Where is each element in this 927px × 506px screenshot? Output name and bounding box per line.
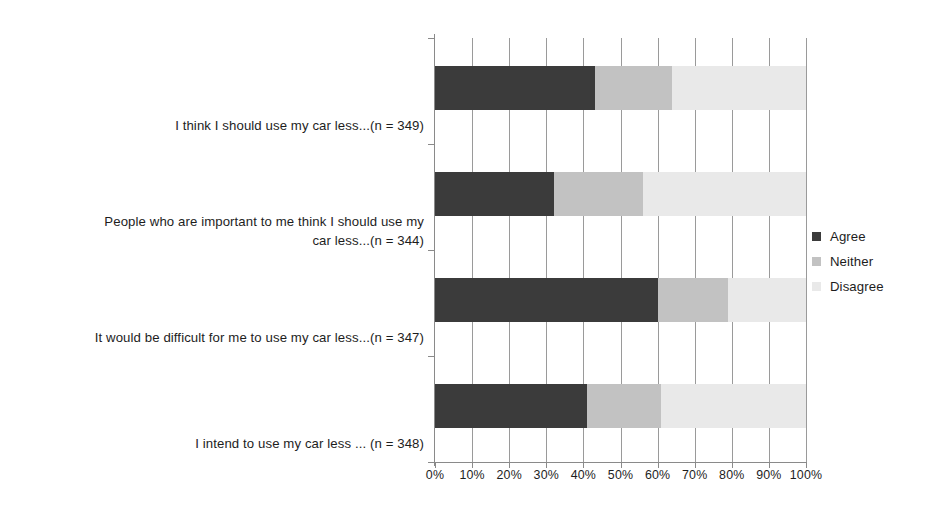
bar-segment-neither[interactable] [587,384,661,428]
x-axis-tick-label: 40% [571,468,596,482]
legend-swatch-icon [812,232,821,241]
bar-segment-agree[interactable] [435,172,554,216]
bar-segment-disagree[interactable] [661,384,806,428]
gridline [806,38,807,462]
category-label-1: People who are important to me think I s… [104,212,424,250]
category-label-0: I think I should use my car less...(n = … [175,116,424,135]
plot-area [435,38,806,462]
bar-segment-disagree[interactable] [728,278,806,322]
bar-row[interactable] [435,384,806,428]
legend-item-disagree[interactable]: Disagree [812,274,922,299]
x-axis-tick-label: 10% [459,468,484,482]
legend-swatch-icon [812,257,821,266]
bar-row[interactable] [435,278,806,322]
x-axis-tick-label: 90% [756,468,781,482]
bar-segment-agree[interactable] [435,278,658,322]
x-axis-tick-label: 60% [645,468,670,482]
x-axis-tick-label: 70% [682,468,707,482]
bar-segment-neither[interactable] [658,278,728,322]
category-label-3: I intend to use my car less ... (n = 348… [195,434,424,453]
bar-segment-disagree[interactable] [672,66,806,110]
y-axis-tick [428,356,435,357]
x-axis-tick-label: 50% [608,468,633,482]
y-axis-tick [428,462,435,463]
bar-row[interactable] [435,172,806,216]
x-axis-tick-label: 80% [719,468,744,482]
x-axis-tick-label: 30% [534,468,559,482]
y-axis-tick [428,144,435,145]
legend-label: Disagree [830,279,884,294]
stacked-bar-chart: I think I should use my car less...(n = … [0,0,927,506]
legend-label: Agree [830,229,866,244]
x-axis-tick-label: 0% [426,468,444,482]
bar-segment-neither[interactable] [554,172,643,216]
bar-row[interactable] [435,66,806,110]
category-label-2: It would be difficult for me to use my c… [95,328,424,347]
x-axis-tick-labels: 0%10%20%30%40%50%60%70%80%90%100% [435,468,806,488]
y-axis-tick [428,250,435,251]
x-axis-tick-label: 20% [496,468,521,482]
x-axis-tick-label: 100% [790,468,823,482]
bar-segment-agree[interactable] [435,384,587,428]
category-axis-labels: I think I should use my car less...(n = … [40,38,432,462]
y-axis-tick [428,38,435,39]
legend-item-neither[interactable]: Neither [812,249,922,274]
bar-segment-neither[interactable] [595,66,673,110]
legend: AgreeNeitherDisagree [812,224,922,299]
bar-segment-disagree[interactable] [643,172,806,216]
bar-segment-agree[interactable] [435,66,595,110]
legend-item-agree[interactable]: Agree [812,224,922,249]
legend-swatch-icon [812,282,821,291]
legend-label: Neither [830,254,873,269]
